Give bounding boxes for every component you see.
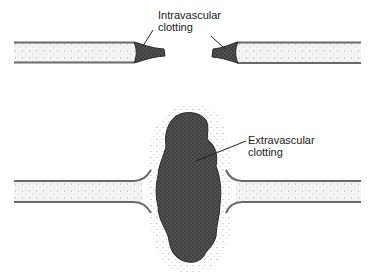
label-intravascular-clotting: Intravascular clotting — [158, 9, 221, 33]
top-right-vessel — [212, 42, 361, 63]
intravascular-clot-right — [212, 42, 238, 63]
bottom-right-vessel — [226, 170, 361, 213]
clotting-diagram: Intravascular clotting Extravascular clo… — [0, 0, 378, 279]
label-extravascular-line1: Extravascular — [248, 134, 315, 146]
label-intravascular-line1: Intravascular — [158, 9, 221, 21]
bottom-left-vessel — [14, 170, 151, 213]
label-extravascular-line2: clotting — [248, 146, 315, 158]
top-left-vessel — [14, 42, 165, 63]
intravascular-clot-left — [134, 42, 165, 63]
label-extravascular-clotting: Extravascular clotting — [248, 134, 315, 158]
leader-line-intravascular-left — [143, 30, 153, 46]
leader-line-intravascular-right — [211, 36, 225, 49]
label-intravascular-line2: clotting — [158, 21, 221, 33]
diagram-artwork — [0, 0, 378, 279]
